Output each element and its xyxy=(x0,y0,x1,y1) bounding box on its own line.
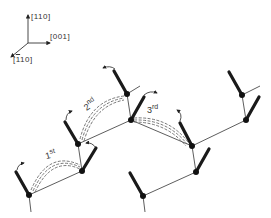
jump-1st-path xyxy=(31,161,80,192)
rotation-arrow-icon xyxy=(66,111,72,120)
dimer-diffusion-diagram xyxy=(0,0,271,218)
axis-label-001: [001] xyxy=(50,32,70,41)
rotation-arrow-icon xyxy=(17,163,24,170)
jump-3rd-suffix: rd xyxy=(152,103,158,110)
rotation-arrow-icon xyxy=(177,110,181,121)
rotation-arrow-icon xyxy=(86,143,96,148)
axis-label-m110: [110] xyxy=(13,55,33,64)
axis-label-m110-rest: 10 xyxy=(20,55,30,64)
rotation-arrow-icon xyxy=(144,92,157,95)
rotation-arrow-icon xyxy=(103,67,115,69)
crystal-axes xyxy=(11,15,50,57)
rotation-arrows xyxy=(17,67,181,170)
chain-back xyxy=(143,86,260,212)
axis-label-110: [110] xyxy=(31,12,51,21)
axis-label-m110-close: ] xyxy=(30,55,33,64)
jump-label-3rd: 3rd xyxy=(147,103,158,115)
jump-paths xyxy=(31,96,188,192)
dimer-bonds xyxy=(16,71,259,196)
